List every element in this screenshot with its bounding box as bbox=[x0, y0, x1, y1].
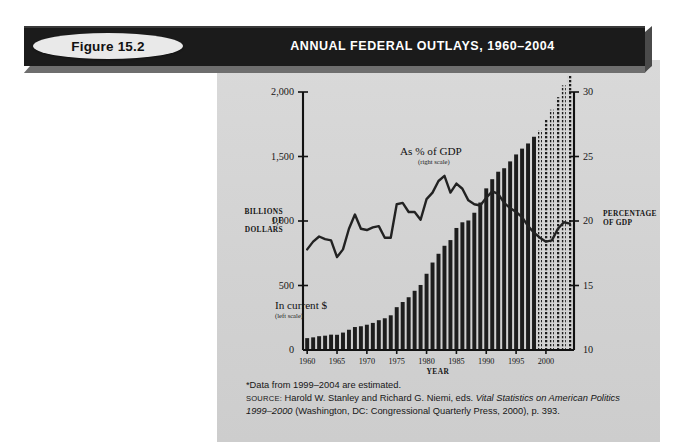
source-label: SOURCE: bbox=[246, 394, 282, 403]
annotation-current-dollars-label: In current $ bbox=[275, 299, 328, 311]
banner-bevel-bottom bbox=[24, 66, 651, 73]
bar-estimated bbox=[556, 97, 560, 350]
bar bbox=[353, 327, 357, 350]
bar bbox=[526, 143, 530, 350]
bar bbox=[347, 330, 351, 350]
bar bbox=[466, 220, 470, 350]
bar bbox=[311, 337, 315, 350]
bar bbox=[514, 154, 518, 350]
x-axis-tick-label: 1980 bbox=[418, 357, 434, 366]
source-authors: Harold W. Stanley and Richard G. Niemi, … bbox=[282, 393, 476, 403]
bar bbox=[443, 246, 447, 350]
line-series bbox=[307, 176, 570, 257]
bar bbox=[401, 302, 405, 350]
bar bbox=[532, 137, 536, 350]
right-axis-title-line-1: PERCENTAGE bbox=[603, 209, 657, 218]
right-axis-tick-label: 15 bbox=[583, 280, 593, 291]
right-axis-tick-label: 25 bbox=[583, 151, 593, 162]
bar bbox=[419, 285, 423, 350]
bar-estimated bbox=[544, 119, 548, 350]
bar-estimated bbox=[538, 130, 542, 350]
annotation-pct-gdp: As % of GDP (right scale) bbox=[400, 145, 462, 166]
bar bbox=[496, 172, 500, 350]
right-axis-title: PERCENTAGE OF GDP bbox=[603, 209, 657, 227]
bar bbox=[359, 326, 363, 350]
bar bbox=[508, 161, 512, 350]
pct-gdp-line bbox=[307, 176, 570, 257]
x-axis-tick-label: 1975 bbox=[389, 357, 405, 366]
left-axis-title: BILLIONS OF DOLLARS bbox=[244, 207, 283, 234]
footnote-estimate-note: *Data from 1999–2004 are estimated. bbox=[246, 379, 646, 392]
x-axis-title: YEAR bbox=[427, 367, 450, 376]
footnote-source-line-2: 1999–2000 (Washington, DC: Congressional… bbox=[246, 405, 646, 418]
bar bbox=[502, 168, 506, 350]
bar bbox=[484, 188, 488, 350]
bar bbox=[431, 263, 435, 350]
left-axis-tick-label: 0 bbox=[289, 344, 294, 355]
bar bbox=[460, 222, 464, 350]
source-title: Vital Statistics on American Politics bbox=[476, 393, 620, 403]
bar-estimated bbox=[568, 75, 572, 350]
bar bbox=[329, 335, 333, 350]
bar bbox=[425, 274, 429, 350]
right-axis-tick-label: 20 bbox=[583, 215, 593, 226]
bar bbox=[323, 336, 327, 350]
bar bbox=[437, 254, 441, 350]
footnote-block: *Data from 1999–2004 are estimated. SOUR… bbox=[246, 379, 646, 419]
bar bbox=[377, 320, 381, 350]
x-axis-tick-label: 2000 bbox=[538, 357, 554, 366]
bar bbox=[365, 325, 369, 350]
bar bbox=[389, 315, 393, 350]
bar bbox=[335, 335, 339, 350]
banner-bevel-right bbox=[645, 26, 652, 72]
left-axis-tick-label: 2,000 bbox=[271, 86, 294, 97]
annotation-pct-gdp-sublabel: (right scale) bbox=[418, 158, 450, 166]
figure-number-badge: Figure 15.2 bbox=[33, 33, 183, 59]
bar bbox=[407, 297, 411, 350]
source-publisher: (Washington, DC: Congressional Quarterly… bbox=[293, 406, 560, 416]
bar bbox=[371, 323, 375, 350]
annotation-current-dollars-sublabel: (left scale) bbox=[275, 312, 303, 320]
x-axis-tick-label: 1995 bbox=[508, 357, 524, 366]
bar bbox=[490, 179, 494, 350]
banner-title: ANNUAL FEDERAL OUTLAYS, 1960–2004 bbox=[200, 26, 645, 66]
bar bbox=[472, 213, 476, 350]
bar bbox=[413, 291, 417, 350]
left-axis-tick-label: 1,500 bbox=[271, 151, 294, 162]
x-axis-tick-label: 1985 bbox=[448, 357, 464, 366]
banner-title-label: ANNUAL FEDERAL OUTLAYS, 1960–2004 bbox=[290, 39, 555, 53]
bar bbox=[341, 333, 345, 350]
bar bbox=[448, 240, 452, 350]
x-axis-ticks: 196019651970197519801985199019952000 bbox=[299, 350, 554, 366]
x-axis-tick-label: 1990 bbox=[478, 357, 494, 366]
right-axis-title-line-2: OF GDP bbox=[603, 218, 632, 227]
left-axis-tick-label: 500 bbox=[279, 280, 294, 291]
x-axis-tick-label: 1960 bbox=[299, 357, 315, 366]
bar bbox=[520, 149, 524, 350]
footnote-source-line: SOURCE: Harold W. Stanley and Richard G.… bbox=[246, 392, 646, 405]
bar-estimated bbox=[550, 110, 554, 350]
source-years: 1999–2000 bbox=[246, 406, 293, 416]
x-axis-tick-label: 1965 bbox=[329, 357, 345, 366]
figure-number-label: Figure 15.2 bbox=[71, 39, 144, 54]
right-axis-tick-label: 10 bbox=[583, 344, 593, 355]
right-axis-tick-label: 30 bbox=[583, 86, 593, 97]
bar bbox=[478, 203, 482, 350]
bar bbox=[454, 228, 458, 350]
bar bbox=[383, 318, 387, 350]
annotation-current-dollars: In current $ (left scale) bbox=[275, 299, 328, 320]
left-axis-title-line-1: BILLIONS bbox=[244, 207, 283, 216]
bar bbox=[305, 338, 309, 350]
bar bbox=[395, 307, 399, 350]
annotation-pct-gdp-label: As % of GDP bbox=[400, 145, 462, 157]
bar-series bbox=[305, 75, 572, 350]
left-axis-title-line-3: DOLLARS bbox=[245, 225, 283, 234]
right-axis-ticks: 1015202530 bbox=[569, 86, 593, 355]
x-axis-tick-label: 1970 bbox=[359, 357, 375, 366]
left-axis-title-line-2: OF bbox=[272, 216, 283, 225]
bar bbox=[317, 336, 321, 350]
bar-estimated bbox=[562, 85, 566, 350]
